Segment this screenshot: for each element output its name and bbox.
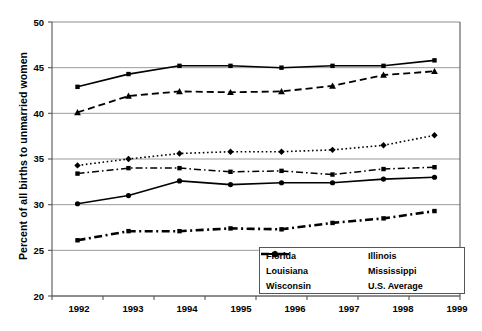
legend-label: U.S. Average [368, 281, 423, 291]
legend: Florida Illinois Louisiana Mississippi W… [259, 247, 465, 294]
legend-swatch-us-average [260, 248, 290, 260]
legend-item-us-average[interactable]: U.S. Average [362, 281, 464, 291]
legend-label: Mississippi [368, 266, 417, 276]
legend-item-wisconsin[interactable]: Wisconsin [260, 281, 362, 291]
line-chart: Percent of all births to unmarried women… [0, 0, 482, 331]
legend-label: Louisiana [266, 266, 308, 276]
legend-label: Wisconsin [266, 281, 311, 291]
legend-item-louisiana[interactable]: Louisiana [260, 266, 362, 276]
legend-item-illinois[interactable]: Illinois [362, 251, 464, 261]
legend-label: Illinois [368, 251, 397, 261]
legend-item-mississippi[interactable]: Mississippi [362, 266, 464, 276]
